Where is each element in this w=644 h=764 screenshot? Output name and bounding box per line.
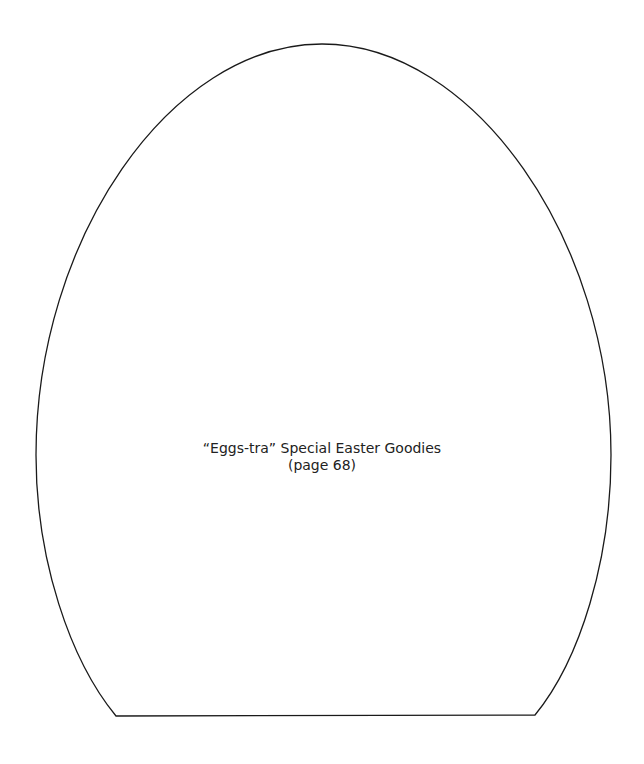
caption-title: “Eggs-tra” Special Easter Goodies (0, 440, 644, 457)
egg-outline (0, 0, 644, 764)
caption-page-reference: (page 68) (0, 457, 644, 474)
template-caption: “Eggs-tra” Special Easter Goodies (page … (0, 440, 644, 474)
egg-cutline (36, 44, 611, 716)
